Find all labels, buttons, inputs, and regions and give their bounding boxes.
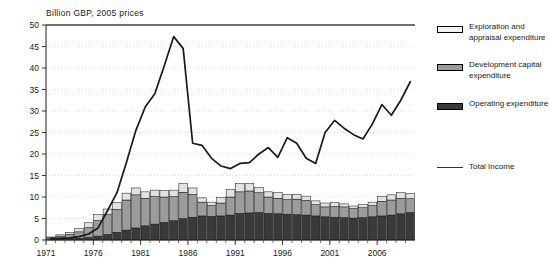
- svg-text:5: 5: [34, 214, 39, 224]
- svg-text:2001: 2001: [320, 248, 339, 258]
- svg-text:40: 40: [30, 63, 40, 73]
- svg-text:45: 45: [30, 42, 40, 52]
- legend-label-operating: Operating expenditure: [469, 99, 550, 110]
- svg-text:1996: 1996: [273, 248, 292, 258]
- legend-label-exploration: Exploration and appraisal expenditure: [469, 22, 550, 43]
- svg-text:50: 50: [30, 20, 40, 30]
- svg-text:15: 15: [30, 171, 40, 181]
- svg-text:1976: 1976: [84, 248, 103, 258]
- svg-text:10: 10: [30, 192, 40, 202]
- svg-text:35: 35: [30, 85, 40, 95]
- x-axis-ticks: 19711976198119861991199620012006: [37, 240, 406, 258]
- svg-text:1981: 1981: [131, 248, 150, 258]
- y-axis-ticks: 05101520253035404550: [30, 20, 46, 245]
- svg-text:0: 0: [34, 235, 39, 245]
- svg-text:25: 25: [30, 128, 40, 138]
- legend-line-total-income: [437, 167, 463, 168]
- svg-text:30: 30: [30, 106, 40, 116]
- chart-figure: Billion GBP, 2005 prices 051015202530354…: [0, 0, 550, 266]
- legend-swatch-exploration: [437, 26, 463, 33]
- chart-title: Billion GBP, 2005 prices: [46, 8, 144, 18]
- legend-swatch-development: [437, 64, 463, 71]
- chart-canvas: 05101520253035404550 1971197619811986199…: [0, 0, 550, 266]
- svg-text:1971: 1971: [37, 248, 56, 258]
- legend-swatch-operating: [437, 103, 463, 110]
- svg-text:1986: 1986: [178, 248, 197, 258]
- svg-text:20: 20: [30, 149, 40, 159]
- legend-label-total-income: Total Income: [469, 162, 550, 173]
- stacked-bars: [46, 184, 414, 240]
- legend-label-development: Development capital expenditure: [469, 60, 550, 81]
- svg-text:2006: 2006: [368, 248, 387, 258]
- svg-text:1991: 1991: [226, 248, 245, 258]
